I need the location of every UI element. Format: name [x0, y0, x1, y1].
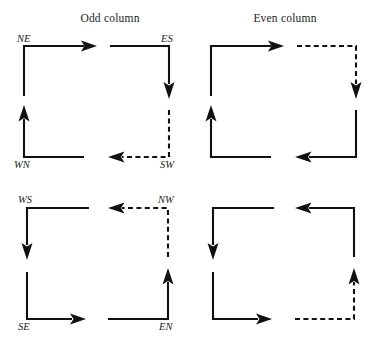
- cell-label-sw: SW: [160, 159, 174, 170]
- turn-arrow-ws: [22, 208, 90, 260]
- turn-arrow-ne: [24, 41, 97, 97]
- turn-arrow-sw: [108, 110, 169, 163]
- turn-arrow-en: [108, 268, 174, 319]
- turn-arrow-even-r4c2: [295, 268, 360, 319]
- cell-label-se: SE: [18, 321, 30, 332]
- figure-canvas: Odd column Even column: [0, 0, 376, 348]
- turn-arrow-even-r3c1: [208, 208, 275, 260]
- turn-arrow-even-r2c2: [295, 110, 356, 163]
- turn-arrow-glyph-layer: [0, 0, 376, 348]
- turn-arrow-even-r3c2: [295, 203, 354, 258]
- turn-arrow-even-r1c1: [211, 41, 284, 97]
- turn-arrow-nw: [108, 203, 168, 258]
- turn-arrow-es: [110, 46, 175, 99]
- cell-label-ne: NE: [17, 33, 31, 44]
- cell-label-en: EN: [159, 321, 173, 332]
- cell-label-es: ES: [161, 33, 173, 44]
- turn-arrow-even-r4c1: [213, 272, 272, 325]
- turn-arrow-even-r1c2: [297, 46, 362, 99]
- turn-arrow-se: [27, 272, 86, 325]
- cell-label-nw: NW: [158, 194, 174, 205]
- turn-arrow-wn: [19, 105, 85, 157]
- cell-label-ws: WS: [18, 194, 32, 205]
- cell-label-wn: WN: [14, 159, 30, 170]
- turn-arrow-even-r2c1: [206, 105, 272, 157]
